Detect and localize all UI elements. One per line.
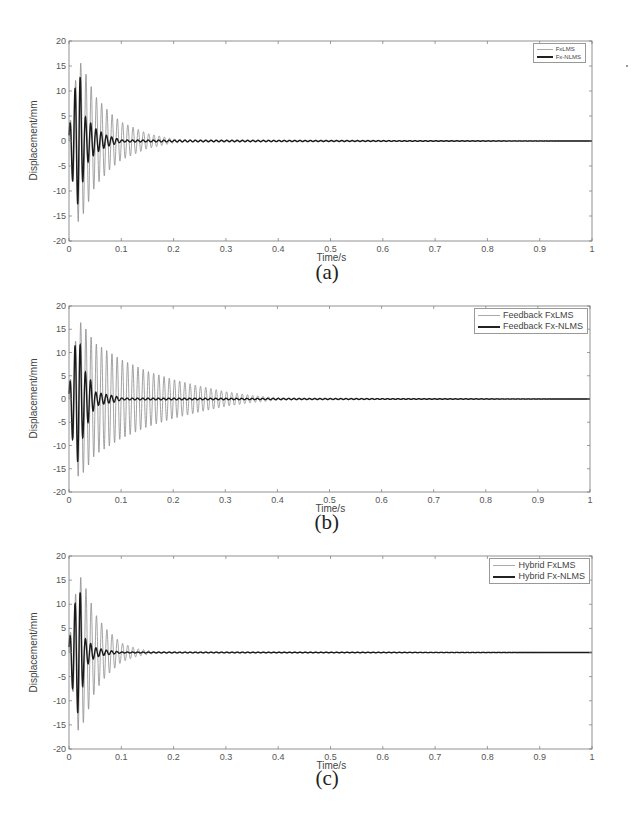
legend: Hybrid FxLMS Hybrid Fx-NLMS xyxy=(489,558,590,584)
y-axis-label: Displacement/mm xyxy=(28,602,39,702)
series-line-fx-nlms xyxy=(69,593,592,713)
series-line-fxlms xyxy=(69,577,592,730)
y-tick-label: -5 xyxy=(58,672,66,682)
thin-line-swatch-icon xyxy=(493,565,515,566)
figure-caption: (c) xyxy=(316,766,339,791)
x-tick-label: 0.7 xyxy=(429,752,442,762)
y-tick-label: 20 xyxy=(56,551,66,561)
x-tick-label: 0.4 xyxy=(272,752,285,762)
x-tick-label: 0.8 xyxy=(481,752,494,762)
x-tick-label: 0.1 xyxy=(115,752,128,762)
x-tick-label: 0.9 xyxy=(533,752,546,762)
x-tick-label: 0.2 xyxy=(167,752,180,762)
x-tick-label: 1 xyxy=(589,752,594,762)
y-tick-label: -10 xyxy=(53,696,66,706)
y-tick-label: -20 xyxy=(53,744,66,754)
y-tick-label: 5 xyxy=(61,623,66,633)
x-tick-label: 0 xyxy=(66,752,71,762)
y-tick-label: 15 xyxy=(56,575,66,585)
plot-area-c: 00.10.20.30.40.50.60.70.80.9120151050-5-… xyxy=(0,0,639,836)
x-tick-label: 0.3 xyxy=(220,752,233,762)
y-tick-label: -15 xyxy=(53,720,66,730)
y-tick-label: 0 xyxy=(61,648,66,658)
x-tick-label: 0.6 xyxy=(377,752,390,762)
y-tick-label: 10 xyxy=(56,599,66,609)
legend-item-hybrid-fx-nlms: Hybrid Fx-NLMS xyxy=(493,571,585,582)
thick-line-swatch-icon xyxy=(493,576,515,578)
legend-item-hybrid-fxlms: Hybrid FxLMS xyxy=(493,560,585,571)
